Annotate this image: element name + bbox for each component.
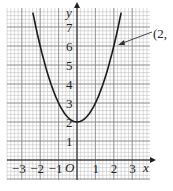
y-tick-label: 5	[66, 58, 73, 73]
x-tick-label: −2	[30, 161, 44, 176]
y-tick-labels: 1234567	[66, 20, 73, 149]
x-axis-label: x	[142, 160, 149, 175]
y-tick-label: 3	[66, 96, 73, 111]
y-axis-label: y	[64, 5, 72, 20]
x-tick-label: 3	[129, 161, 136, 176]
x-tick-label: −3	[12, 161, 26, 176]
y-axis-arrow-icon	[74, 2, 80, 8]
y-tick-label: 6	[66, 39, 73, 54]
x-tick-label: 2	[111, 161, 118, 176]
grid	[7, 8, 150, 180]
annotation-label: (2,	[153, 26, 167, 41]
y-tick-label: 2	[66, 115, 73, 130]
y-tick-label: 4	[66, 77, 73, 92]
parabola-chart: (2, y x O −3−2−1123 1234567	[0, 0, 173, 191]
x-tick-label: 1	[92, 161, 99, 176]
y-tick-label: 7	[66, 20, 73, 35]
origin-label: O	[65, 160, 75, 175]
x-tick-label: −1	[49, 161, 63, 176]
arrowhead-icon	[118, 40, 125, 45]
x-axis-arrow-icon	[150, 157, 156, 163]
y-tick-label: 1	[66, 134, 73, 149]
